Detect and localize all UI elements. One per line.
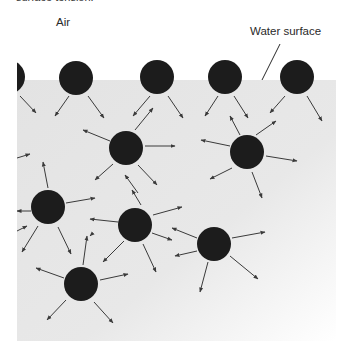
molecule-surface-4 <box>208 60 242 94</box>
molecule-bulk-5 <box>197 227 231 261</box>
water-surface-leader-line <box>262 44 280 80</box>
molecule-bulk-3 <box>31 190 65 224</box>
molecule-bulk-6 <box>64 267 98 301</box>
molecule-bulk-4 <box>118 208 152 242</box>
molecule-surface-3 <box>140 60 174 94</box>
molecule-bulk-1 <box>109 131 143 165</box>
air-label: Air <box>56 16 70 28</box>
molecule-bulk-2 <box>230 135 264 169</box>
molecule-surface-2 <box>59 61 93 95</box>
surface-tension-diagram <box>0 0 347 341</box>
molecule-surface-5 <box>280 60 314 94</box>
water-surface-label: Water surface <box>250 25 321 37</box>
